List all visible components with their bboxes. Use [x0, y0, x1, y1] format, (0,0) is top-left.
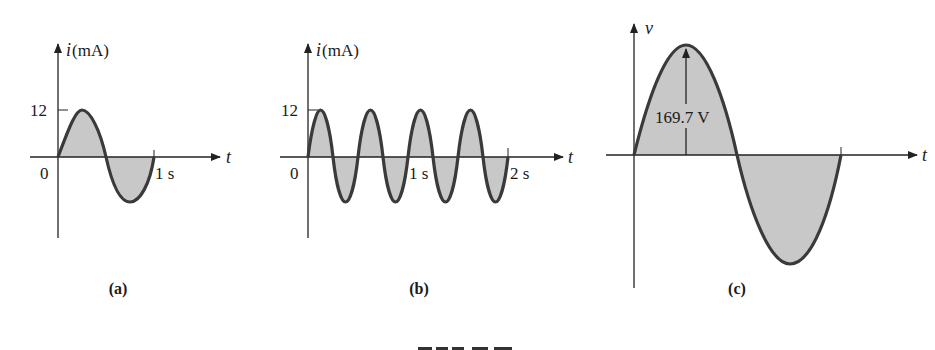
- panel-b: i (mA) t 12 0 1 s 2 s (b): [280, 40, 574, 298]
- panel-c-peak-annotation: 169.7 V: [655, 108, 710, 127]
- panel-b-tick2-label: 2 s: [510, 164, 529, 183]
- panel-c-y-label: v: [645, 18, 653, 38]
- panel-a-t-label: t: [226, 147, 232, 167]
- panel-b-tick1-label: 1 s: [409, 164, 428, 183]
- panel-b-peak-label: 12: [281, 101, 298, 120]
- panel-a-period-label: 1 s: [155, 164, 174, 183]
- panel-b-caption: (b): [409, 280, 429, 298]
- panel-a-origin-label: 0: [40, 164, 49, 183]
- panel-b-y-label-var: i: [316, 40, 321, 60]
- panel-a-caption: (a): [109, 280, 128, 298]
- panel-a-y-label-var: i: [66, 40, 71, 60]
- panel-b-origin-label: 0: [290, 164, 299, 183]
- panel-c: v t 169.7 V (c): [606, 18, 928, 298]
- panel-c-t-label: t: [922, 145, 928, 165]
- panel-a-y-label-unit: (mA): [72, 41, 109, 60]
- figure-canvas: i (mA) t 12 0 1 s (a) i (mA) t 12 0 1 s …: [0, 0, 935, 350]
- panel-b-y-label-unit: (mA): [322, 41, 359, 60]
- panel-c-caption: (c): [728, 280, 746, 298]
- panel-b-t-label: t: [568, 147, 574, 167]
- panel-a: i (mA) t 12 0 1 s (a): [30, 40, 232, 298]
- panel-a-peak-label: 12: [30, 101, 47, 120]
